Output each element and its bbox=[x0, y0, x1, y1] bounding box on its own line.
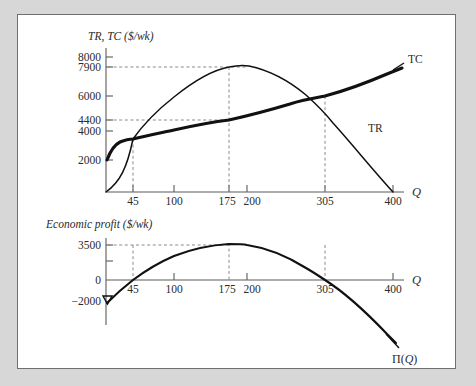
top-xlabel-45: 45 bbox=[127, 195, 139, 207]
bottom-ylabel-neg2000: −2000 bbox=[72, 295, 102, 307]
profit-curve-label: Π(Q) bbox=[392, 352, 417, 366]
bottom-chart-x-axis-title: Q bbox=[412, 273, 421, 287]
top-ylabel-7900: 7900 bbox=[78, 61, 101, 73]
bottom-xlabel-200: 200 bbox=[243, 283, 261, 295]
profit-leader-line bbox=[386, 334, 399, 348]
top-xlabel-175: 175 bbox=[218, 195, 236, 207]
bottom-chart-y-axis-title: Economic profit ($/wk) bbox=[45, 218, 152, 231]
bottom-xlabel-45: 45 bbox=[127, 283, 139, 295]
bottom-ylabel-3500: 3500 bbox=[78, 239, 101, 251]
bottom-chart: Economic profit ($/wk) 3500 0 −2000 45 1… bbox=[45, 218, 421, 366]
bottom-xlabel-100: 100 bbox=[165, 283, 183, 295]
top-ylabel-6000: 6000 bbox=[78, 90, 101, 102]
profit-label-var: Q bbox=[405, 352, 414, 366]
bottom-xlabel-400: 400 bbox=[384, 283, 402, 295]
bottom-ylabel-0: 0 bbox=[95, 274, 101, 286]
top-ylabel-2000: 2000 bbox=[78, 154, 101, 166]
profit-label-suffix: ) bbox=[413, 352, 417, 366]
bottom-xlabel-175: 175 bbox=[218, 283, 236, 295]
tr-curve-label: TR bbox=[368, 122, 383, 134]
top-xlabel-200: 200 bbox=[243, 195, 261, 207]
figure-root: TR, TC ($/wk) 8000 7900 6000 4400 4000 2… bbox=[0, 0, 476, 386]
top-xlabel-100: 100 bbox=[165, 195, 183, 207]
top-chart: TR, TC ($/wk) 8000 7900 6000 4400 4000 2… bbox=[78, 30, 423, 207]
profit-label-prefix: Π( bbox=[392, 352, 405, 366]
top-chart-x-axis-title: Q bbox=[412, 185, 421, 199]
top-chart-y-axis-title: TR, TC ($/wk) bbox=[88, 30, 154, 43]
tc-curve bbox=[107, 68, 402, 160]
top-ylabel-4000: 4000 bbox=[78, 125, 101, 137]
top-xlabel-305: 305 bbox=[316, 195, 334, 207]
economics-figure: TR, TC ($/wk) 8000 7900 6000 4400 4000 2… bbox=[0, 0, 476, 386]
tr-curve bbox=[106, 65, 393, 192]
top-xlabel-400: 400 bbox=[384, 195, 402, 207]
tc-curve-label: TC bbox=[408, 53, 423, 65]
